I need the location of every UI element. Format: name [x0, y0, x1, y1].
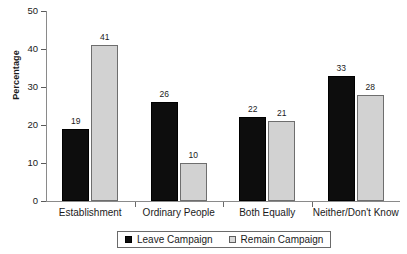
bar-remain-2 — [268, 121, 295, 201]
y-axis-tick-label: 0 — [12, 196, 38, 206]
legend-label-leave-campaign: Leave Campaign — [137, 234, 213, 245]
y-axis-tick-mark — [41, 201, 46, 202]
y-axis-tick-label: 20 — [12, 120, 38, 130]
y-axis-tick-label: 50 — [12, 6, 38, 16]
bar-remain-1 — [180, 163, 207, 201]
y-axis-tick-mark — [41, 87, 46, 88]
bar-value-label: 19 — [56, 117, 95, 126]
y-axis-tick-labels: 01020304050 — [8, 0, 38, 254]
bar-leave-3 — [328, 76, 355, 201]
y-axis-tick-mark — [41, 163, 46, 164]
y-axis-tick-mark — [41, 125, 46, 126]
legend-item-leave-campaign: Leave Campaign — [125, 234, 213, 245]
bar-leave-0 — [62, 129, 89, 201]
x-axis-category-label: Both Equally — [223, 207, 312, 219]
bar-value-label: 41 — [85, 33, 124, 42]
legend-item-remain-campaign: Remain Campaign — [229, 234, 324, 245]
x-axis-category-label: Neither/Don't Know — [312, 207, 401, 219]
bar-leave-2 — [239, 117, 266, 201]
bar-value-label: 33 — [322, 64, 361, 73]
bar-value-label: 26 — [145, 90, 184, 99]
bar-value-label: 21 — [262, 109, 301, 118]
y-axis-tick-mark — [41, 11, 46, 12]
bar-value-label: 28 — [351, 83, 390, 92]
y-axis-tick-label: 10 — [12, 158, 38, 168]
chart-legend: Leave Campaign Remain Campaign — [117, 231, 331, 248]
bar-remain-0 — [91, 45, 118, 201]
bar-value-label: 10 — [174, 151, 213, 160]
bar-remain-3 — [357, 95, 384, 201]
y-axis-tick-label: 40 — [12, 44, 38, 54]
bar-chart: Percentage 01020304050 Leave Campaign Re… — [0, 0, 407, 254]
legend-swatch-remain-icon — [229, 236, 236, 243]
y-axis-tick-label: 30 — [12, 82, 38, 92]
legend-label-remain-campaign: Remain Campaign — [241, 234, 324, 245]
legend-swatch-leave-icon — [125, 236, 132, 243]
x-axis-category-label: Establishment — [46, 207, 135, 219]
x-axis-category-label: Ordinary People — [135, 207, 224, 219]
y-axis-tick-mark — [41, 49, 46, 50]
